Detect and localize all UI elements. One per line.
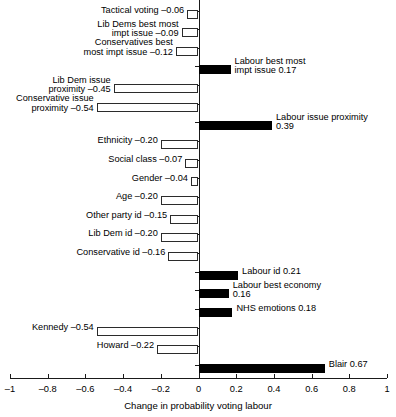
x-axis-tick (349, 374, 350, 378)
bar-other-party-id (170, 215, 198, 224)
bar-social-class (185, 159, 198, 168)
bar-label-howard: Howard –0.22 (97, 341, 154, 351)
bar-row: Labour best economy 0.16 (0, 285, 396, 304)
x-axis-tick-label: 0.6 (292, 384, 332, 394)
bar-label-age: Age –0.20 (116, 192, 158, 202)
bar-label-lib-dem-id: Lib Dem id –0.20 (88, 229, 157, 239)
bar-row: Tactical voting –0.06 (0, 6, 396, 25)
x-axis-tick-label: –1 (0, 384, 30, 394)
bar-label-conservative-id: Conservative id –0.16 (76, 248, 165, 258)
bar-row: Conservatives best most impt issue –0.12 (0, 43, 396, 62)
bar-lib-dems-best-most-impt-issue (182, 28, 199, 37)
bar-labour-best-most-impt-issue (199, 65, 231, 74)
x-axis-tick-label: –0.2 (141, 384, 181, 394)
bar-howard (157, 345, 198, 354)
bar-row: Other party id –0.15 (0, 211, 396, 230)
bar-row: Gender –0.04 (0, 173, 396, 192)
bar-labour-best-economy (199, 289, 229, 298)
bar-label-nhs-emotions: NHS emotions 0.18 (236, 304, 316, 314)
bar-gender (191, 177, 199, 186)
bar-row: Labour issue proximity 0.39 (0, 117, 396, 136)
bar-conservative-issue-proximity (97, 103, 199, 112)
bar-label-labour-issue-proximity: Labour issue proximity 0.39 (276, 113, 368, 132)
bar-row: Kennedy –0.54 (0, 323, 396, 342)
bar-row: Conservative id –0.16 (0, 248, 396, 267)
bar-label-blair: Blair 0.67 (329, 360, 368, 370)
x-axis-tick (48, 374, 49, 378)
x-axis-tick (123, 374, 124, 378)
bar-row: Age –0.20 (0, 192, 396, 211)
bar-nhs-emotions (199, 308, 233, 317)
bar-labour-id (199, 271, 239, 280)
bar-tactical-voting (187, 10, 198, 19)
bar-row: Labour id 0.21 (0, 267, 396, 286)
x-axis-tick (85, 374, 86, 378)
bar-label-labour-id: Labour id 0.21 (242, 267, 301, 277)
bar-ethnicity (161, 140, 199, 149)
bar-label-conservatives-best-most-impt-issue: Conservatives best most impt issue –0.12 (84, 38, 173, 57)
x-axis-tick (199, 374, 200, 378)
x-axis-tick-label: 0.8 (329, 384, 369, 394)
x-axis-tick-label: 0.2 (216, 384, 256, 394)
x-axis-tick (387, 374, 388, 378)
bar-labour-issue-proximity (199, 121, 273, 130)
bar-lib-dem-id (161, 233, 199, 242)
bar-label-social-class: Social class –0.07 (108, 155, 182, 165)
bar-label-lib-dem-issue-proximity: Lib Dem issue proximity –0.45 (48, 76, 110, 95)
bar-row: NHS emotions 0.18 (0, 304, 396, 323)
x-axis-title: Change in probability voting labour (0, 400, 396, 411)
bar-label-gender: Gender –0.04 (132, 174, 188, 184)
horizontal-bar-chart: Tactical voting –0.06Lib Dems best most … (0, 0, 396, 417)
x-axis-tick (236, 374, 237, 378)
x-axis-tick-label: –0.6 (65, 384, 105, 394)
bar-age (161, 196, 199, 205)
x-axis-tick (312, 374, 313, 378)
x-axis-tick (10, 374, 11, 378)
bar-label-labour-best-economy: Labour best economy 0.16 (233, 281, 321, 300)
bar-row: Lib Dem id –0.20 (0, 229, 396, 248)
bar-lib-dem-issue-proximity (114, 84, 199, 93)
bar-row: Social class –0.07 (0, 155, 396, 174)
x-axis-tick (274, 374, 275, 378)
bar-label-labour-best-most-impt-issue: Labour best most impt issue 0.17 (235, 57, 306, 76)
bar-conservatives-best-most-impt-issue (176, 47, 199, 56)
bar-conservative-id (168, 252, 198, 261)
bar-label-ethnicity: Ethnicity –0.20 (98, 136, 158, 146)
x-axis-tick-label: –0.4 (103, 384, 143, 394)
bar-row: Lib Dems best most impt issue –0.09 (0, 24, 396, 43)
bar-blair (199, 364, 325, 373)
x-axis-tick-label: 0.4 (254, 384, 294, 394)
bar-label-tactical-voting: Tactical voting –0.06 (101, 6, 184, 16)
x-axis-tick (161, 374, 162, 378)
bar-row: Howard –0.22 (0, 341, 396, 360)
bar-kennedy (97, 327, 199, 336)
bar-label-conservative-issue-proximity: Conservative issue proximity –0.54 (16, 94, 94, 113)
bar-row: Ethnicity –0.20 (0, 136, 396, 155)
bar-label-kennedy: Kennedy –0.54 (32, 323, 94, 333)
x-axis-tick-label: 1 (367, 384, 396, 394)
bar-label-other-party-id: Other party id –0.15 (86, 211, 167, 221)
x-axis-tick-label: 0 (179, 384, 219, 394)
x-axis-line (10, 378, 387, 379)
x-axis-tick-label: –0.8 (28, 384, 68, 394)
bar-label-lib-dems-best-most-impt-issue: Lib Dems best most impt issue –0.09 (97, 20, 178, 39)
